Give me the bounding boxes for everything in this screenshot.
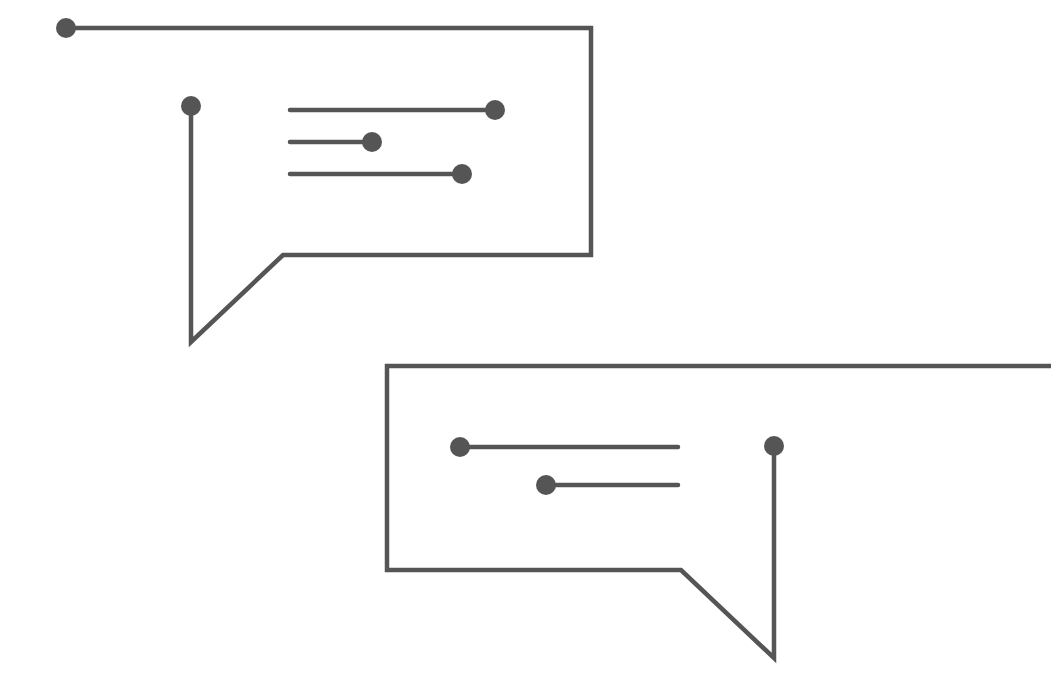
outline-start-dot bbox=[56, 18, 76, 38]
message-line-dot-icon bbox=[450, 437, 470, 457]
outline-end-dot bbox=[181, 96, 201, 116]
message-line-dot-icon bbox=[452, 164, 472, 184]
message-line-dot-icon bbox=[485, 100, 505, 120]
outline-end-dot bbox=[764, 436, 784, 456]
chat-bubbles-illustration bbox=[0, 0, 1051, 688]
background bbox=[0, 0, 1051, 688]
message-line-dot-icon bbox=[362, 132, 382, 152]
message-line-dot-icon bbox=[536, 475, 556, 495]
